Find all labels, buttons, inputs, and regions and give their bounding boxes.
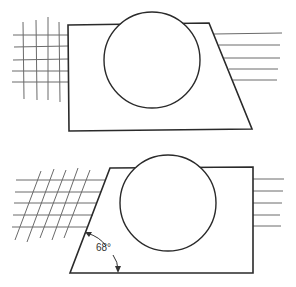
bottom-circle xyxy=(120,155,216,251)
top-left-grid xyxy=(12,17,68,102)
arrow-head-lower xyxy=(115,266,121,273)
top-right-lines xyxy=(214,33,282,80)
top-circle xyxy=(104,12,200,108)
angle-label: 68° xyxy=(96,242,111,253)
bottom-left-grid xyxy=(12,168,106,242)
bottom-figure: 68° xyxy=(12,155,284,273)
diagram-canvas: 68° xyxy=(0,0,296,287)
angle-annotation: 68° xyxy=(85,232,121,273)
bottom-right-lines xyxy=(253,179,284,226)
top-figure xyxy=(12,12,282,131)
